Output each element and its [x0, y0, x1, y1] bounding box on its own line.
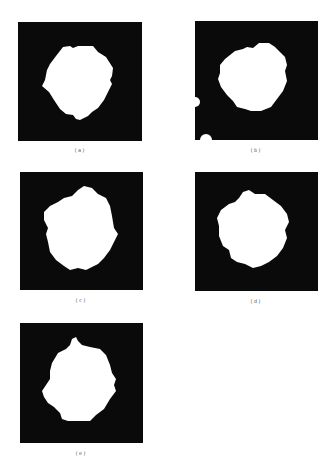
mask-image-c [20, 172, 143, 290]
panel-a [18, 22, 142, 141]
panel-d [195, 172, 318, 291]
caption-b: (b) [226, 147, 286, 153]
caption-d: (d) [226, 298, 286, 304]
panel-c [20, 172, 143, 290]
mask-image-d [195, 172, 318, 291]
caption-a: (a) [50, 147, 110, 153]
caption-e: (e) [51, 450, 111, 456]
caption-c: (c) [51, 297, 111, 303]
mask-image-e [20, 323, 143, 443]
panel-e [20, 323, 143, 443]
mask-image-b [195, 21, 318, 140]
panel-b [195, 21, 318, 140]
mask-image-a [18, 22, 142, 141]
